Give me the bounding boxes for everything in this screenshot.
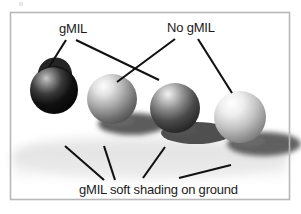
scan-artifact-speck [19,2,23,6]
sphere-4 [214,91,266,143]
label-ground-shading: gMIL soft shading on ground [79,182,238,197]
figure-illustration: gMIL No gMIL gMIL soft shading on ground [0,0,301,214]
sphere-3 [150,83,200,133]
sphere-2 [87,74,137,124]
label-gmil: gMIL [59,21,87,36]
label-no-gmil: No gMIL [167,20,215,35]
